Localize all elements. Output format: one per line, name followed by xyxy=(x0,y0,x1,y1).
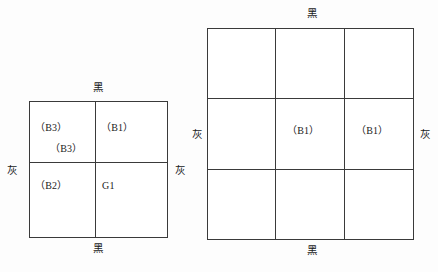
left-grid-right-edge-label: 灰 xyxy=(175,165,185,176)
left-grid-top-edge-label: 黑 xyxy=(93,82,103,93)
right-grid-cell-r2c0 xyxy=(208,170,276,239)
left-grid-cell-r0c0: （B3） （B3） xyxy=(30,102,96,163)
cell-label-b2: （B2） xyxy=(35,181,67,191)
right-grid-cell-r1c1: （B1） xyxy=(276,99,345,170)
right-grid-cell-r0c0 xyxy=(208,29,276,99)
right-grid-cell-r1c0 xyxy=(208,99,276,170)
left-grid-left-edge-label: 灰 xyxy=(7,165,17,176)
right-grid-cell-r2c2 xyxy=(345,170,413,239)
cell-label-b3-lower: （B3） xyxy=(50,144,82,154)
right-grid-cell-r0c1 xyxy=(276,29,345,99)
cell-label-b1-right: （B1） xyxy=(356,126,388,136)
right-grid-left-edge-label: 灰 xyxy=(192,129,202,140)
right-grid-cell-r2c1 xyxy=(276,170,345,239)
left-grid: （B3） （B3） （B1） （B2） G1 xyxy=(29,101,168,238)
right-grid-cell-r1c2: （B1） xyxy=(345,99,413,170)
left-grid-cell-r0c1: （B1） xyxy=(96,102,167,163)
right-grid-top-edge-label: 黑 xyxy=(307,8,317,19)
right-grid-cell-r0c2 xyxy=(345,29,413,99)
left-grid-cell-r1c0: （B2） xyxy=(30,163,96,237)
diagram-canvas: 黑 黑 灰 灰 （B3） （B3） （B1） （B2） G1 黑 黑 灰 灰 xyxy=(0,0,438,272)
cell-label-g1: G1 xyxy=(102,181,115,191)
left-grid-bottom-edge-label: 黑 xyxy=(93,243,103,254)
left-grid-cell-r1c1: G1 xyxy=(96,163,167,237)
cell-label-b1: （B1） xyxy=(101,123,133,133)
right-grid: （B1） （B1） xyxy=(207,28,414,240)
cell-label-b1-center: （B1） xyxy=(287,126,319,136)
cell-label-b3-upper: （B3） xyxy=(35,123,67,133)
right-grid-right-edge-label: 灰 xyxy=(420,129,430,140)
right-grid-bottom-edge-label: 黑 xyxy=(307,245,317,256)
